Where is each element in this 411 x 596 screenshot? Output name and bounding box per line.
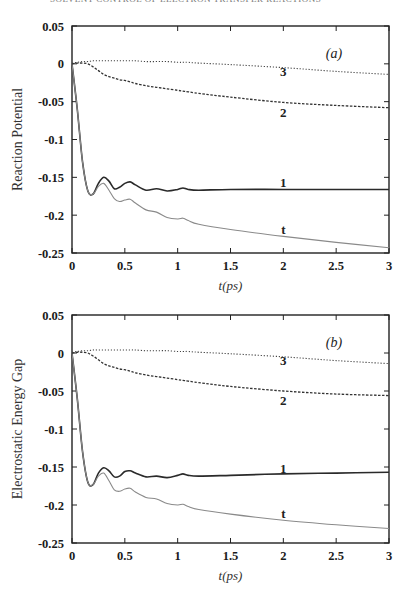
x-tick-label: 3: [386, 259, 392, 273]
y-tick-label: -0.1: [44, 423, 64, 437]
y-tick-label: -0.25: [38, 537, 64, 551]
y-tick-label: -0.2: [44, 209, 64, 223]
y-tick-label: -0.15: [38, 171, 64, 185]
curve-label-t: t: [281, 222, 286, 237]
panel-label: (a): [326, 46, 343, 62]
x-tick-label: 2.5: [328, 549, 344, 563]
chart-panel-b: 00.511.522.530.050-0.05-0.1-0.15-0.2-0.2…: [0, 289, 411, 596]
x-tick-label: 1.5: [223, 549, 239, 563]
x-tick-label: 3: [386, 549, 392, 563]
series-1-line: [72, 64, 389, 195]
y-tick-label: -0.15: [38, 461, 64, 475]
y-tick-label: -0.05: [38, 95, 64, 109]
y-tick-label: 0: [58, 347, 64, 361]
y-tick-label: 0.05: [42, 309, 64, 323]
chart-a-svg: 00.511.522.530.050-0.05-0.1-0.15-0.2-0.2…: [0, 0, 411, 300]
x-tick-label: 0.5: [117, 259, 133, 273]
y-axis-label: Electrostatic Energy Gap: [10, 359, 25, 499]
y-tick-label: -0.05: [38, 385, 64, 399]
curve-label-t: t: [281, 506, 286, 521]
series-t-line: [72, 64, 389, 248]
series-3-line: [72, 350, 389, 364]
x-tick-label: 2.5: [328, 259, 344, 273]
chart-b-svg: 00.511.522.530.050-0.05-0.1-0.15-0.2-0.2…: [0, 289, 411, 596]
curve-label-1: 1: [280, 461, 287, 476]
curve-label-3: 3: [280, 64, 287, 79]
x-tick-label: 1: [175, 259, 181, 273]
x-tick-label: 1: [175, 549, 181, 563]
series-t-line: [72, 353, 389, 529]
y-tick-label: -0.2: [44, 499, 64, 513]
x-axis-label: t(ps): [219, 568, 243, 583]
y-axis-label: Reaction Potential: [10, 88, 25, 191]
chart-panel-a: 00.511.522.530.050-0.05-0.1-0.15-0.2-0.2…: [0, 0, 411, 300]
x-tick-label: 0: [69, 259, 75, 273]
x-tick-label: 1.5: [223, 259, 239, 273]
x-tick-label: 0.5: [117, 549, 133, 563]
y-tick-label: -0.25: [38, 247, 64, 261]
x-tick-label: 0: [69, 549, 75, 563]
series-3-line: [72, 61, 389, 75]
curve-label-3: 3: [280, 353, 287, 368]
series-1-line: [72, 353, 389, 486]
panel-label: (b): [326, 335, 343, 351]
series-2-line: [72, 63, 389, 108]
y-tick-label: 0.05: [42, 20, 64, 34]
series-2-line: [72, 352, 389, 395]
curve-label-1: 1: [280, 175, 287, 190]
x-tick-label: 2: [280, 259, 286, 273]
curve-label-2: 2: [280, 393, 287, 408]
y-tick-label: -0.1: [44, 133, 64, 147]
y-tick-label: 0: [58, 57, 64, 71]
x-tick-label: 2: [280, 549, 286, 563]
curve-label-2: 2: [280, 105, 287, 120]
